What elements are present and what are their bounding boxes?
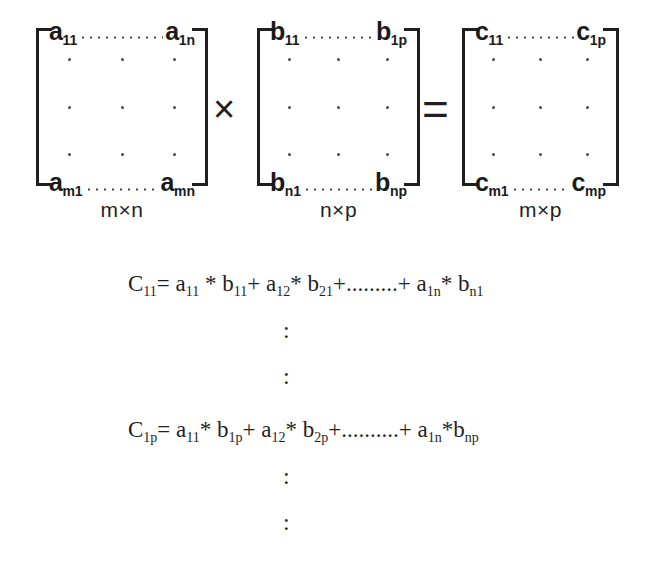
equation-c1p-ellipsis: .......... <box>341 417 399 442</box>
matrix-a-bottom-dots <box>85 188 159 191</box>
equation-c1p-term5: a1n <box>417 417 441 442</box>
equation-c1p-equals: = <box>157 417 170 442</box>
equation-cmp-term3: am2 <box>264 563 292 567</box>
equation-c1p-term2: b1p <box>217 417 243 442</box>
matrix-c-dot-row <box>488 106 593 109</box>
matrix-c-entry-bottom-right: cmp <box>572 170 606 195</box>
multiplication-operator: × <box>213 90 235 128</box>
matrix-c-dot-grid <box>488 58 593 156</box>
equation-c11-equals: = <box>157 271 170 296</box>
equation-cmp-term4: b2p <box>309 563 335 567</box>
equation-cmp-term1: am1 <box>180 563 208 567</box>
equation-c11-plus3: + <box>398 271 411 296</box>
matrix-a-dot-row <box>64 58 181 61</box>
equation-c1p-star3: * <box>442 417 454 442</box>
equation-c11-term6: bn1 <box>458 271 484 296</box>
equation-c11-term3: a12 <box>266 271 290 296</box>
equation-c11-star2: * <box>290 271 302 296</box>
equation-c11-lhs: C11 <box>128 271 157 296</box>
equation-cmp-term2: b1p <box>225 563 251 567</box>
matrix-b-entry-top-right: b1p <box>376 19 407 44</box>
matrix-b-dot-grid <box>284 58 394 156</box>
matrix-b-bottom-dots <box>303 188 373 191</box>
matrix-a-entry-bottom-left: am1 <box>49 170 83 195</box>
matrix-c-entry-bottom-left: cm1 <box>475 170 509 195</box>
equation-c11-ellipsis: ......... <box>346 271 398 296</box>
matrix-a-dot-row <box>64 106 181 109</box>
matrix-a-dot-row <box>64 153 181 156</box>
equation-c1p-star1: * <box>200 417 212 442</box>
equation-c1p: C1p= a11* b1p+ a12* b2p+..........+ a1n*… <box>0 418 648 442</box>
equations-block: C11= a11 * b11+ a12* b21+.........+ a1n*… <box>0 272 648 567</box>
equation-c11-star1: * <box>205 271 217 296</box>
equation-cmp-lhs: Cmp <box>128 563 161 567</box>
vertical-dots-1: : <box>0 318 648 342</box>
equation-c11-term2: b11 <box>222 271 247 296</box>
equation-c1p-lhs: C1p <box>128 417 157 442</box>
matrix-b-entry-bottom-right: bnp <box>375 170 407 195</box>
equation-c1p-term6: bnp <box>453 417 479 442</box>
matrix-b-bottom-row: bn1 bnp <box>270 170 407 195</box>
equation-c1p-star2: * <box>285 417 297 442</box>
equation-c11-term4: b21 <box>307 271 333 296</box>
matrix-multiplication-figure: a11 a1n am1 amn × <box>0 0 648 567</box>
matrix-c-dimension-label: m×p <box>462 198 619 222</box>
equation-c1p-term3: a12 <box>261 417 285 442</box>
equation-cmp-star3: * <box>446 563 458 567</box>
matrix-a-top-row: a11 a1n <box>49 19 195 44</box>
equation-c1p-term1: a11 <box>176 417 200 442</box>
equation-cmp-term6: bnp <box>464 563 490 567</box>
matrix-c-bottom-dots <box>511 188 570 191</box>
equation-cmp-ellipsis: ......... <box>348 563 400 567</box>
matrix-equation-row: a11 a1n am1 amn × <box>0 28 648 228</box>
matrix-a-entry-bottom-right: amn <box>161 170 195 195</box>
equation-cmp-star2: * <box>292 563 304 567</box>
equation-c1p-plus3: + <box>399 417 412 442</box>
matrix-c-bottom-row: cm1 cmp <box>475 170 606 195</box>
matrix-b-dimension-label: n×p <box>257 198 420 222</box>
matrix-c-dot-row <box>488 58 593 61</box>
matrix-b-top-dots <box>302 36 374 39</box>
matrix-a-entry-top-right: a1n <box>165 19 195 44</box>
equation-c11-term5: a1n <box>416 271 440 296</box>
equals-operator: = <box>422 86 449 132</box>
equation-c1p-plus1: + <box>243 417 256 442</box>
equation-cmp-plus2: + <box>335 563 348 567</box>
matrix-a-inner: a11 a1n am1 amn <box>49 28 195 186</box>
equation-cmp-equals: = <box>161 563 174 567</box>
matrix-b-top-row: b11 b1p <box>270 19 407 44</box>
matrix-a-dimension-label: m×n <box>36 198 208 222</box>
matrix-c-top-row: c11 c1p <box>475 19 606 44</box>
equation-c11-term1: a11 <box>176 271 200 296</box>
matrix-b-entry-bottom-left: bn1 <box>270 170 301 195</box>
matrix-c-dot-row <box>488 153 593 156</box>
equation-c11-plus2: + <box>333 271 346 296</box>
matrix-b: b11 b1p bn1 bnp <box>257 28 420 186</box>
matrix-c-top-dots <box>505 36 574 39</box>
matrix-a-bottom-row: am1 amn <box>49 170 195 195</box>
equation-c11: C11= a11 * b11+ a12* b21+.........+ a1n*… <box>0 272 648 296</box>
equation-cmp-term5: amn <box>418 563 446 567</box>
matrix-b-entry-top-left: b11 <box>270 19 300 44</box>
matrix-c-inner: c11 c1p cm1 cmp <box>475 28 606 186</box>
equation-c11-star3: * <box>441 271 453 296</box>
matrix-a-top-dots <box>79 36 163 39</box>
equation-c1p-term4: b2p <box>303 417 329 442</box>
vertical-dots-2: : <box>0 364 648 388</box>
vertical-dots-4: : <box>0 510 648 534</box>
equation-cmp-plus3: + <box>399 563 412 567</box>
matrix-c-entry-top-left: c11 <box>475 19 503 44</box>
matrix-a-entry-top-left: a11 <box>49 19 77 44</box>
equation-c11-plus1: + <box>247 271 260 296</box>
matrix-b-dot-row <box>284 58 394 61</box>
matrix-a: a11 a1n am1 amn <box>36 28 208 186</box>
matrix-b-dot-row <box>284 106 394 109</box>
matrix-a-dot-grid <box>64 58 181 156</box>
matrix-c: c11 c1p cm1 cmp <box>462 28 619 186</box>
equation-cmp-star1: * <box>208 563 220 567</box>
equation-cmp-plus1: + <box>251 563 264 567</box>
matrix-b-dot-row <box>284 153 394 156</box>
vertical-dots-3: : <box>0 464 648 488</box>
equation-c1p-plus2: + <box>328 417 341 442</box>
matrix-c-entry-top-right: c1p <box>576 19 606 44</box>
